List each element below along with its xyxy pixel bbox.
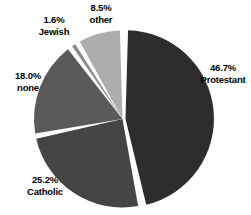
pie-slice-protestant[interactable] xyxy=(125,30,213,204)
pie-label-protestant-name: Protestant xyxy=(196,74,250,86)
pie-label-other-value: 8.5% xyxy=(77,2,125,14)
pie-label-catholic-value: 25.2% xyxy=(14,174,76,186)
pie-label-protestant-value: 46.7% xyxy=(196,62,250,74)
pie-label-none-value: 18.0% xyxy=(2,70,54,82)
pie-label-none-name: none xyxy=(2,82,54,94)
pie-label-jewish: 1.6% Jewish xyxy=(29,14,79,37)
pie-label-protestant: 46.7% Protestant xyxy=(196,62,250,85)
pie-label-catholic: 25.2% Catholic xyxy=(14,174,76,197)
pie-label-catholic-name: Catholic xyxy=(14,186,76,198)
pie-label-none: 18.0% none xyxy=(2,70,54,93)
pie-label-other: 8.5% other xyxy=(77,2,125,25)
pie-label-jewish-value: 1.6% xyxy=(29,14,79,26)
pie-label-other-name: other xyxy=(77,14,125,26)
pie-chart-figure: 46.7% Protestant 25.2% Catholic 18.0% no… xyxy=(0,0,251,215)
pie-label-jewish-name: Jewish xyxy=(29,26,79,38)
